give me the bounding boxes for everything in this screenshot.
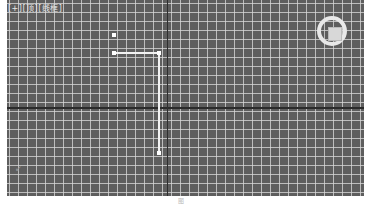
figure-caption: 图 — [178, 196, 184, 204]
y-axis-line — [167, 0, 168, 196]
x-axis-line — [7, 107, 364, 109]
shape-vertex-2[interactable] — [112, 51, 116, 55]
viewcube-face-icon[interactable] — [328, 27, 342, 41]
shape-vertex-1[interactable] — [112, 33, 116, 37]
axis-gizmo-icon: ↙ — [15, 164, 22, 173]
viewport-top[interactable]: [+][顶][线框] ↙ — [7, 0, 364, 196]
bottom-strip — [0, 196, 369, 204]
shape-segment-1[interactable] — [114, 52, 159, 54]
viewcube-ring[interactable] — [317, 16, 347, 46]
shape-vertex-4[interactable] — [157, 151, 161, 155]
shape-segment-2[interactable] — [158, 52, 160, 153]
shape-vertex-3[interactable] — [157, 51, 161, 55]
viewport-label[interactable]: [+][顶][线框] — [8, 2, 62, 13]
